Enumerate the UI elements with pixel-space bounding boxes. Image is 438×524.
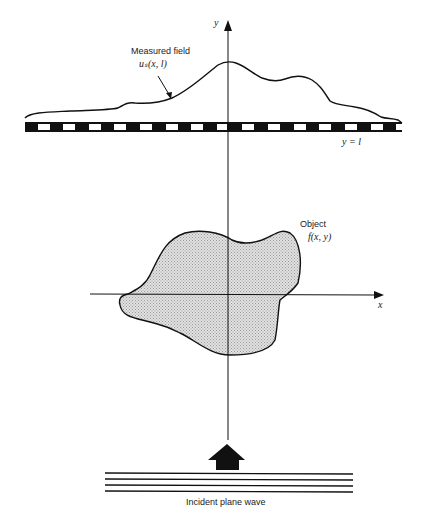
measured-field-label: Measured field [131,46,190,56]
propagation-arrow-icon [208,444,245,470]
diffraction-tomography-diagram: Measured field uₛ(x, l) y y = l Object f… [0,0,438,524]
object-symbol: f(x, y) [308,231,331,242]
incident-wave-label: Incident plane wave [186,497,266,507]
detector-line-bar [25,122,402,132]
diagram-canvas [0,0,438,524]
object-shape [119,231,300,355]
y-axis-label: y [214,17,218,28]
measured-field-symbol: uₛ(x, l) [139,58,167,69]
incident-plane-wave-lines [105,473,353,492]
measured-field-curve [25,62,402,123]
y-axis [224,20,232,440]
measured-field-pointer-arrow [158,76,172,99]
x-axis-label: x [378,299,382,310]
detector-line-label: y = l [342,136,361,147]
object-label: Object [300,219,326,229]
